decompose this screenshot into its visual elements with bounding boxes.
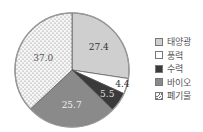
legend-swatch-icon	[155, 65, 163, 73]
legend-item-bio: 바이오	[155, 76, 191, 90]
pie-chart: 27.44.45.525.737.0	[0, 0, 150, 132]
legend-item-solar: 태양광	[155, 35, 191, 49]
legend-swatch-icon	[155, 92, 163, 100]
legend-label: 폐기물	[167, 89, 191, 102]
legend-swatch-icon	[155, 78, 163, 86]
legend-item-hydro: 수력	[155, 62, 191, 76]
slice-value-label: 5.5	[100, 89, 115, 99]
slice-value-label: 25.7	[62, 100, 82, 110]
slice-value-label: 4.4	[115, 79, 130, 89]
slice-value-label: 37.0	[33, 53, 53, 63]
legend-item-wind: 풍력	[155, 49, 191, 63]
legend-label: 바이오	[167, 76, 191, 89]
legend-label: 수력	[167, 62, 183, 75]
legend-swatch-icon	[155, 38, 163, 46]
legend-swatch-icon	[155, 51, 163, 59]
legend-label: 태양광	[167, 35, 191, 48]
legend-item-waste: 폐기물	[155, 89, 191, 103]
slice-value-label: 27.4	[89, 42, 109, 52]
legend-label: 풍력	[167, 49, 183, 62]
chart-legend: 태양광 풍력 수력 바이오 폐기물	[155, 35, 191, 103]
